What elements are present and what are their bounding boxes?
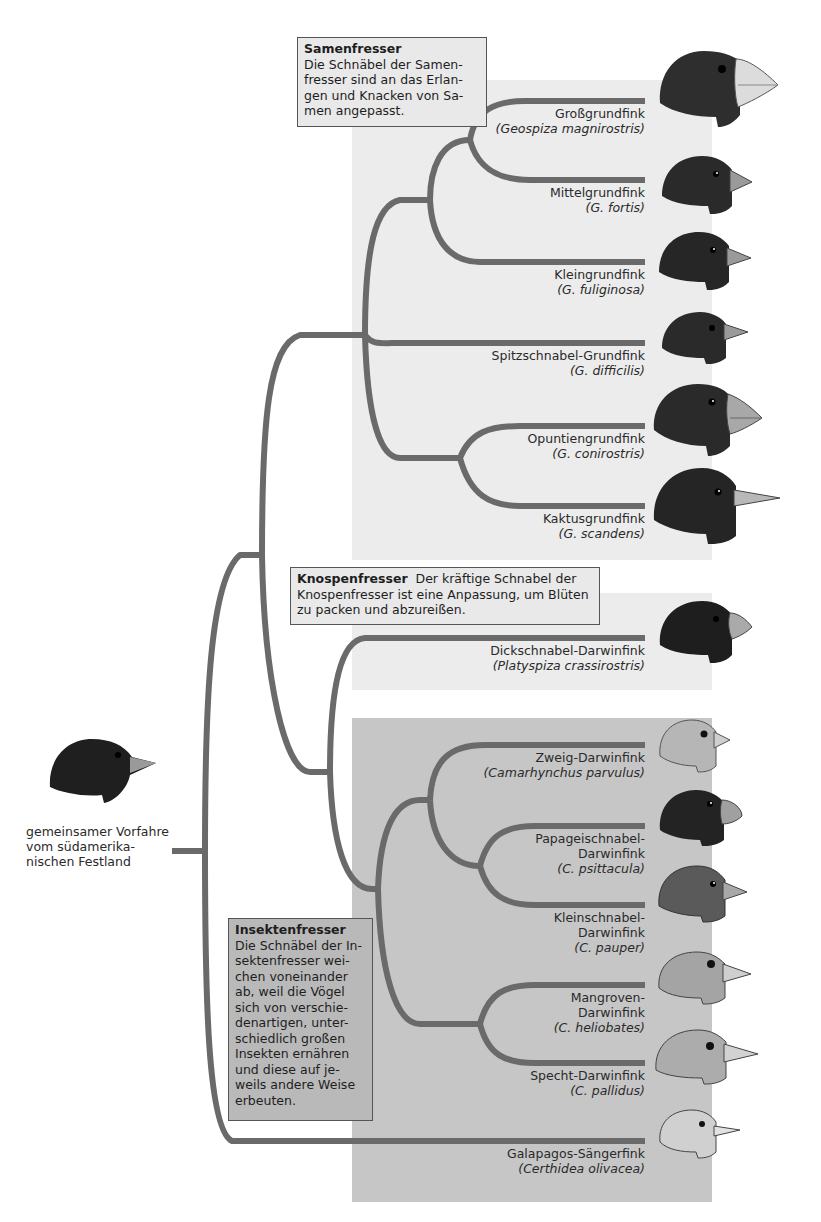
- ancestor-label: gemeinsamer Vorfahre vom südamerika- nis…: [26, 824, 176, 869]
- species-label-difficilis: Spitzschnabel-Grundfink (G. difficilis): [405, 348, 645, 378]
- insect-eaters-title: Insektenfresser: [235, 922, 366, 938]
- finch-head-magnirostris-icon: [656, 45, 781, 130]
- species-label-olivacea: Galapagos-Sängerfink (Certhidea olivacea…: [405, 1146, 645, 1176]
- species-label-conirostris: Opuntiengrundfink (G. conirostris): [405, 431, 645, 461]
- species-label-fortis: Mittelgrundfink (G. fortis): [405, 185, 645, 215]
- insect-eaters-callout: Insektenfresser Die Schnäbel der In- sek…: [228, 918, 373, 1121]
- node-a: [262, 335, 365, 772]
- species-label-crassirostris: Dickschnabel-Darwinfink (Platyspiza cras…: [405, 643, 645, 673]
- finch-head-psittacula-icon: [656, 786, 746, 848]
- finch-head-conirostris-icon: [650, 378, 765, 458]
- finch-head-fuliginosa-icon: [655, 228, 755, 293]
- bud-eaters-callout: Knospenfresser Der kräftige Schnabel der…: [290, 567, 600, 625]
- species-label-pauper: Kleinschnabel- Darwinfink (C. pauper): [405, 910, 645, 955]
- species-label-fuliginosa: Kleingrundfink (G. fuliginosa): [405, 267, 645, 297]
- species-label-heliobates: Mangroven- Darwinfink (C. heliobates): [405, 990, 645, 1035]
- seed-eaters-title: Samenfresser: [304, 41, 480, 57]
- finch-head-olivacea-icon: [656, 1106, 746, 1164]
- finch-head-crassirostris-icon: [656, 597, 756, 667]
- node-b: [365, 200, 645, 458]
- finch-head-fortis-icon: [658, 152, 758, 217]
- finch-head-parvulus-icon: [656, 716, 736, 774]
- species-label-magnirostris: Großgrundfink (Geospiza magnirostris): [405, 106, 645, 136]
- bud-eaters-title: Knospenfresser: [297, 571, 408, 586]
- finch-head-difficilis-icon: [658, 308, 753, 368]
- ancestor-bird-head-icon: [44, 735, 159, 807]
- species-label-psittacula: Papageischnabel- Darwinfink (C. psittacu…: [405, 831, 645, 876]
- finch-head-pallidus-icon: [652, 1026, 762, 1088]
- species-label-pallidus: Specht-Darwinfink (C. pallidus): [405, 1068, 645, 1098]
- finch-head-heliobates-icon: [655, 948, 755, 1010]
- species-label-scandens: Kaktusgrundfink (G. scandens): [405, 511, 645, 541]
- finch-head-pauper-icon: [655, 862, 750, 924]
- species-label-parvulus: Zweig-Darwinfink (Camarhynchus parvulus): [405, 750, 645, 780]
- finch-head-scandens-icon: [650, 462, 785, 547]
